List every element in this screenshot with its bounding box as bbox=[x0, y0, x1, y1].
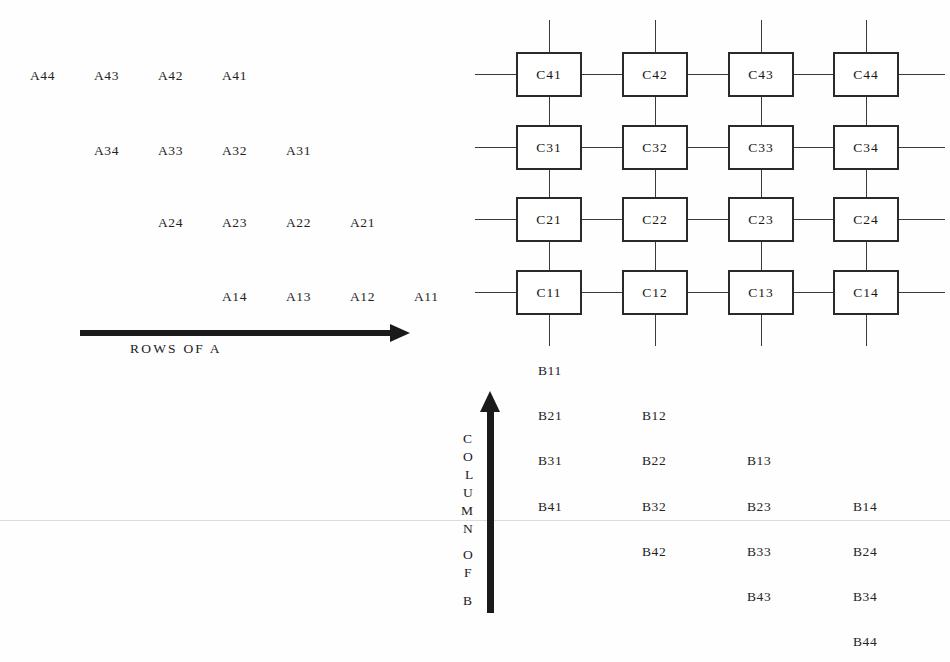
pe-cell[interactable]: C23 bbox=[728, 197, 794, 242]
matrix-b-element: B33 bbox=[747, 545, 771, 559]
matrix-b-element: B14 bbox=[853, 500, 877, 514]
column-of-b-letter: F bbox=[464, 566, 472, 580]
matrix-a-element: A21 bbox=[350, 216, 375, 230]
pe-cell[interactable]: C31 bbox=[516, 125, 582, 170]
matrix-a-element: A12 bbox=[350, 290, 375, 304]
pe-cell[interactable]: C12 bbox=[622, 270, 688, 315]
matrix-a-element: A11 bbox=[414, 290, 439, 304]
matrix-a-element: A24 bbox=[158, 216, 183, 230]
matrix-a-element: A23 bbox=[222, 216, 247, 230]
arrow-shaft-vertical bbox=[487, 410, 494, 613]
column-of-b-letter: B bbox=[463, 594, 472, 608]
matrix-b-element: B21 bbox=[538, 409, 562, 423]
matrix-b-element: B23 bbox=[747, 500, 771, 514]
column-of-b-letter: U bbox=[463, 486, 473, 500]
diagram-canvas: A44 A43 A42 A41 A34 A33 A32 A31 A24 A23 … bbox=[0, 0, 950, 662]
matrix-a-element: A32 bbox=[222, 144, 247, 158]
matrix-a-element: A33 bbox=[158, 144, 183, 158]
column-of-b-letter: L bbox=[465, 468, 473, 482]
matrix-b-element: B42 bbox=[642, 545, 666, 559]
matrix-b-element: B31 bbox=[538, 454, 562, 468]
matrix-a-element: A31 bbox=[286, 144, 311, 158]
matrix-a-element: A44 bbox=[30, 69, 55, 83]
pe-cell[interactable]: C44 bbox=[833, 52, 899, 97]
column-of-b-letter: O bbox=[463, 450, 473, 464]
column-of-b-letter: C bbox=[463, 432, 472, 446]
matrix-b-element: B13 bbox=[747, 454, 771, 468]
pe-cell[interactable]: C33 bbox=[728, 125, 794, 170]
matrix-a-element: A41 bbox=[222, 69, 247, 83]
matrix-b-element: B34 bbox=[853, 590, 877, 604]
column-of-b-letter: O bbox=[463, 548, 473, 562]
matrix-a-element: A43 bbox=[94, 69, 119, 83]
pe-cell[interactable]: C34 bbox=[833, 125, 899, 170]
matrix-a-element: A14 bbox=[222, 290, 247, 304]
matrix-b-element: B22 bbox=[642, 454, 666, 468]
arrow-head-up-icon bbox=[480, 391, 500, 412]
column-of-b-letter: M bbox=[461, 504, 473, 518]
matrix-a-element: A42 bbox=[158, 69, 183, 83]
pe-cell[interactable]: C32 bbox=[622, 125, 688, 170]
arrow-shaft-horizontal bbox=[80, 330, 392, 336]
matrix-b-element: B44 bbox=[853, 635, 877, 649]
pe-cell[interactable]: C21 bbox=[516, 197, 582, 242]
pe-cell[interactable]: C22 bbox=[622, 197, 688, 242]
matrix-a-element: A13 bbox=[286, 290, 311, 304]
pe-cell[interactable]: C43 bbox=[728, 52, 794, 97]
matrix-a-element: A22 bbox=[286, 216, 311, 230]
rows-of-a-label: ROWS OF A bbox=[130, 341, 222, 357]
pe-cell[interactable]: C13 bbox=[728, 270, 794, 315]
matrix-b-element: B24 bbox=[853, 545, 877, 559]
arrow-head-right-icon bbox=[390, 324, 410, 342]
matrix-b-element: B32 bbox=[642, 500, 666, 514]
matrix-a-element: A34 bbox=[94, 144, 119, 158]
matrix-b-element: B12 bbox=[642, 409, 666, 423]
column-of-b-letter: N bbox=[463, 522, 473, 536]
scan-artifact-line bbox=[0, 520, 950, 521]
pe-cell[interactable]: C14 bbox=[833, 270, 899, 315]
matrix-b-element: B11 bbox=[538, 364, 562, 378]
pe-cell[interactable]: C24 bbox=[833, 197, 899, 242]
pe-cell[interactable]: C11 bbox=[516, 270, 582, 315]
pe-cell[interactable]: C41 bbox=[516, 52, 582, 97]
matrix-b-element: B41 bbox=[538, 500, 562, 514]
matrix-b-element: B43 bbox=[747, 590, 771, 604]
pe-cell[interactable]: C42 bbox=[622, 52, 688, 97]
